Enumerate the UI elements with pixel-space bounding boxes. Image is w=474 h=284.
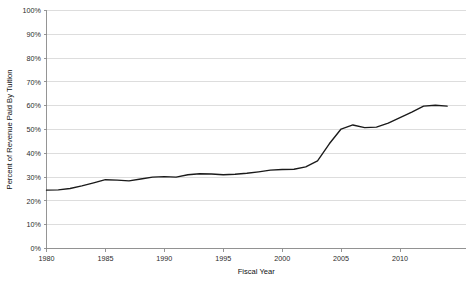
x-axis-tick-labels: 1980198519901995200020052010	[39, 254, 409, 263]
x-tick-label: 2000	[274, 254, 290, 263]
y-tick-label: 90%	[27, 30, 42, 39]
x-tick-label: 1985	[97, 254, 113, 263]
x-tick-label: 2010	[392, 254, 408, 263]
y-axis-title: Percent of Revenue Paid By Tuition	[5, 70, 14, 190]
y-tick-label: 40%	[27, 149, 42, 158]
chart-container: 0%10%20%30%40%50%60%70%80%90%100% 198019…	[0, 0, 474, 284]
line-chart: 0%10%20%30%40%50%60%70%80%90%100% 198019…	[0, 0, 474, 284]
x-tick-label: 1980	[39, 254, 55, 263]
gridlines-group	[44, 11, 467, 249]
y-tick-label: 70%	[27, 78, 42, 87]
y-axis-tick-labels: 0%10%20%30%40%50%60%70%80%90%100%	[23, 6, 42, 253]
y-tick-label: 80%	[27, 54, 42, 63]
y-tick-label: 10%	[27, 220, 42, 229]
x-axis-title: Fiscal Year	[238, 267, 276, 276]
x-tick-label: 1990	[156, 254, 172, 263]
y-tick-label: 30%	[27, 173, 42, 182]
y-tick-label: 50%	[27, 125, 42, 134]
y-tick-label: 0%	[31, 244, 42, 253]
x-tick-label: 2005	[333, 254, 349, 263]
y-tick-label: 20%	[27, 197, 42, 206]
y-tick-label: 60%	[27, 101, 42, 110]
x-tick-label: 1995	[215, 254, 231, 263]
y-tick-label: 100%	[23, 6, 42, 15]
